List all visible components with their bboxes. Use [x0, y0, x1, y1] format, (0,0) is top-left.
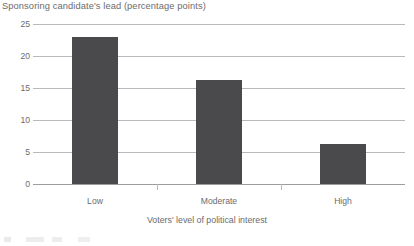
gridline	[33, 24, 405, 25]
y-axis-tick-label: 10	[4, 116, 30, 125]
gridline	[33, 184, 405, 185]
bar	[196, 80, 242, 184]
y-axis-tick-label: 15	[4, 84, 30, 93]
y-axis-tick-label: 20	[4, 52, 30, 61]
bar	[320, 144, 366, 184]
y-axis-tick-label: 5	[4, 148, 30, 157]
x-axis-tick	[157, 184, 158, 190]
x-axis-category-label: Low	[45, 196, 145, 206]
page-footer-artifact	[4, 237, 154, 242]
x-axis-title: Voters' level of political interest	[0, 215, 414, 225]
y-axis-tick-labels: 0510152025	[0, 24, 30, 184]
chart-title: Sponsoring candidate's lead (percentage …	[2, 1, 206, 12]
x-axis-tick	[281, 184, 282, 190]
y-axis-tick-label: 25	[4, 20, 30, 29]
x-axis-category-label: Moderate	[169, 196, 269, 206]
x-axis-category-label: High	[293, 196, 393, 206]
bar	[72, 37, 118, 184]
y-axis-tick-label: 0	[4, 180, 30, 189]
bar-chart-figure: Sponsoring candidate's lead (percentage …	[0, 0, 414, 246]
plot-area	[33, 24, 405, 184]
